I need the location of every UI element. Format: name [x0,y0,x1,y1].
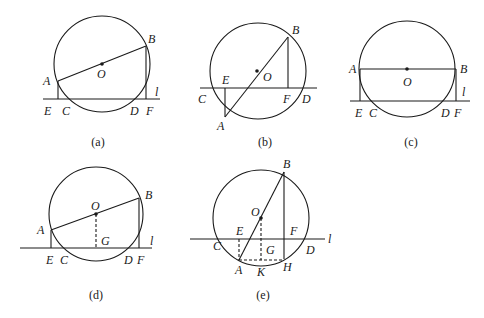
point-label-h: H [282,260,293,274]
point-label-d: D [305,243,315,257]
point-label-b: B [283,157,291,171]
point-label-f: F [282,92,291,106]
point-label-e: E [45,253,54,267]
point-label-a: A [36,223,45,237]
point-label-e: E [221,73,230,87]
segment-AB [225,37,288,117]
figure-canvas: ABOlECDF(a)ABOECFD(b)ABOlECDF(c)ABOGlECD… [0,0,484,318]
center-point-dot [255,69,259,73]
figure-b: ABOECFD(b) [198,23,317,149]
point-label-f: F [289,224,298,238]
point-label-a: A [216,119,225,133]
point-label-l: l [328,232,332,246]
point-label-l: l [150,234,154,248]
figure-caption: (d) [89,288,103,302]
figure-c: ABOlECDF(c) [348,21,470,149]
center-point-dot [100,62,104,66]
point-label-c: C [60,253,69,267]
point-label-d: D [129,104,139,118]
point-label-b: B [148,32,156,46]
point-label-f: F [136,253,145,267]
point-label-c: C [198,92,207,106]
point-label-g: G [101,234,110,248]
point-label-f: F [453,106,462,120]
point-label-o: O [97,67,106,81]
point-label-a: A [234,263,243,277]
center-point-dot [259,216,263,220]
point-label-b: B [145,188,153,202]
point-label-f: F [145,104,154,118]
point-label-o: O [403,75,412,89]
point-label-d: D [440,106,450,120]
center-point-dot [405,67,409,71]
point-label-d: D [301,92,311,106]
point-label-c: C [213,239,222,253]
point-label-c: C [62,104,71,118]
point-label-o: O [251,205,260,219]
point-label-e: E [235,224,244,238]
figure-d: ABOGlECDF(d) [20,167,154,302]
figure-caption: (c) [404,135,417,149]
figure-caption: (e) [256,288,269,302]
point-label-e: E [43,104,52,118]
point-label-l: l [462,85,466,99]
figure-caption: (b) [258,135,272,149]
point-label-c: C [369,106,378,120]
point-label-a: A [348,62,357,76]
point-label-l: l [155,85,159,99]
point-label-a: A [42,74,51,88]
figure-a: ABOlECDF(a) [42,16,160,149]
point-label-g: G [266,243,275,257]
figure-caption: (a) [91,135,104,149]
point-label-o: O [91,199,100,213]
segment-AB [239,172,284,260]
point-label-o: O [263,70,272,84]
point-label-e: E [354,106,363,120]
figure-e: BOEFlCGDAKH(e) [190,157,332,302]
geometry-figure-panel: ABOlECDF(a)ABOECFD(b)ABOlECDF(c)ABOGlECD… [0,0,484,318]
point-label-b: B [460,62,468,76]
point-label-k: K [256,265,266,279]
point-label-d: D [123,253,133,267]
point-label-b: B [292,23,300,37]
